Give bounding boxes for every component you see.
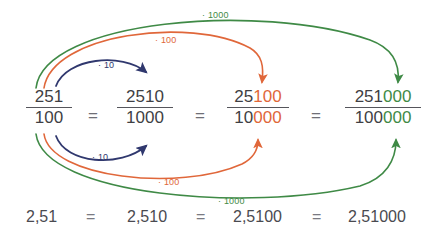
equals-sign-2: = bbox=[195, 107, 205, 125]
arc-label-bottom-multiply-1000: · 1000 bbox=[218, 196, 245, 206]
figure-canvas: · 1000 · 100 · 10 · 10 · 100 · 1000 251 … bbox=[0, 0, 436, 238]
fraction-1: 251 100 bbox=[26, 88, 72, 127]
fraction-1-numerator: 251 bbox=[26, 88, 72, 108]
equals-sign-3: = bbox=[311, 107, 321, 125]
arc-top-multiply-100 bbox=[44, 32, 263, 88]
fraction-4-numerator-appended-zeros: 000 bbox=[383, 87, 411, 106]
fraction-3-denominator: 10000 bbox=[227, 108, 289, 127]
decimal-equation-row: 2,51 = 2,510 = 2,5100 = 2,51000 bbox=[0, 208, 436, 230]
fraction-4-denominator-appended-zeros: 000 bbox=[383, 108, 411, 127]
equals-sign-1: = bbox=[88, 107, 98, 125]
fraction-4-numerator: 251000 bbox=[345, 88, 421, 108]
decimal-equals-sign-1: = bbox=[86, 208, 95, 226]
arc-label-top-multiply-100: · 100 bbox=[155, 35, 177, 45]
decimal-equals-sign-3: = bbox=[312, 208, 321, 226]
fraction-3-numerator-appended-zeros: 100 bbox=[253, 87, 281, 106]
decimal-equals-sign-2: = bbox=[196, 208, 205, 226]
fraction-4-denominator: 100000 bbox=[345, 108, 421, 127]
arc-bottom-multiply-1000 bbox=[36, 134, 396, 198]
decimal-4: 2,51000 bbox=[348, 208, 406, 226]
arc-label-bottom-multiply-100: · 100 bbox=[158, 177, 180, 187]
fraction-3: 25100 10000 bbox=[227, 88, 289, 127]
arc-label-top-multiply-1000: · 1000 bbox=[202, 10, 229, 20]
decimal-2: 2,510 bbox=[127, 208, 167, 226]
arc-label-bottom-multiply-10: · 10 bbox=[92, 152, 108, 162]
fraction-2: 2510 1000 bbox=[117, 88, 173, 127]
fraction-3-numerator: 25100 bbox=[227, 88, 289, 108]
arc-label-top-multiply-10: · 10 bbox=[98, 60, 114, 70]
fraction-3-denominator-appended-zeros: 000 bbox=[253, 108, 281, 127]
fraction-equation-row: 251 100 = 2510 1000 = 25100 10000 = 2510… bbox=[0, 88, 436, 134]
fraction-2-denominator: 1000 bbox=[117, 108, 173, 127]
fraction-4: 251000 100000 bbox=[345, 88, 421, 127]
fraction-1-denominator: 100 bbox=[26, 108, 72, 127]
decimal-3: 2,5100 bbox=[233, 208, 282, 226]
arc-top-multiply-1000 bbox=[36, 20, 398, 88]
fraction-2-numerator: 2510 bbox=[117, 88, 173, 108]
decimal-1: 2,51 bbox=[26, 208, 57, 226]
